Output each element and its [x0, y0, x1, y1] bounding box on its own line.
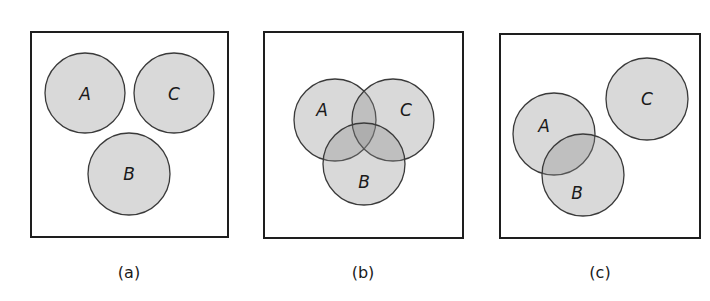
set-label-a: A — [537, 116, 550, 136]
venn-panel-a: ACB(a) — [31, 32, 228, 282]
set-label-c: C — [168, 84, 180, 104]
venn-panel-c: ABC(c) — [500, 34, 700, 282]
set-label-b: B — [123, 164, 135, 184]
venn-panel-b: ACB(b) — [264, 32, 463, 282]
set-circle-b — [323, 123, 405, 205]
set-label-a: A — [315, 100, 328, 120]
panel-caption: (b) — [352, 263, 375, 282]
venn-diagram-figure: ACB(a)ACB(b)ABC(c) — [0, 0, 710, 301]
set-label-c: C — [400, 100, 412, 120]
panel-caption: (a) — [118, 263, 140, 282]
set-label-a: A — [78, 84, 91, 104]
set-label-b: B — [571, 183, 583, 203]
set-label-b: B — [358, 172, 370, 192]
set-circle-b — [542, 134, 624, 216]
set-label-c: C — [641, 89, 653, 109]
panel-caption: (c) — [589, 263, 610, 282]
